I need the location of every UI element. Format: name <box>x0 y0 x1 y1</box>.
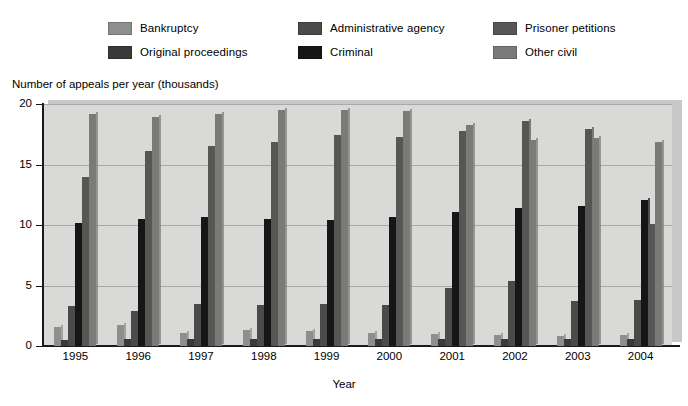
bar-1997-other-civil[interactable] <box>215 114 222 346</box>
bar-1998-other-civil[interactable] <box>278 110 285 346</box>
bar-2002-administrative-agency[interactable] <box>508 281 515 346</box>
bar-2002-criminal[interactable] <box>515 208 522 346</box>
bar-1997-bankruptcy[interactable] <box>180 333 187 346</box>
bar-1995-other-civil[interactable] <box>89 114 96 346</box>
bar-1998-prisoner-petitions[interactable] <box>271 142 278 346</box>
bar-1996-original-proceedings[interactable] <box>124 339 131 346</box>
bar-group-1998 <box>232 104 295 346</box>
bar-2003-criminal[interactable] <box>578 206 585 346</box>
bar-front-face <box>271 142 278 346</box>
bar-front-face <box>131 311 138 346</box>
bar-1995-bankruptcy[interactable] <box>54 327 61 346</box>
x-axis-label-1998: 1998 <box>232 350 295 362</box>
bar-1995-criminal[interactable] <box>75 223 82 346</box>
bar-front-face <box>327 220 334 346</box>
bar-2000-other-civil[interactable] <box>403 111 410 346</box>
bar-front-face <box>341 110 348 346</box>
bar-2002-other-civil[interactable] <box>529 140 536 346</box>
bar-2001-prisoner-petitions[interactable] <box>459 131 466 346</box>
bar-front-face <box>117 325 124 346</box>
bar-front-face <box>257 305 264 346</box>
bar-2000-original-proceedings[interactable] <box>375 339 382 346</box>
bar-front-face <box>578 206 585 346</box>
bar-1999-bankruptcy[interactable] <box>306 331 313 346</box>
bar-1996-administrative-agency[interactable] <box>131 311 138 346</box>
bar-2001-criminal[interactable] <box>452 212 459 346</box>
bar-2000-administrative-agency[interactable] <box>382 305 389 346</box>
bar-2000-prisoner-petitions[interactable] <box>396 137 403 346</box>
bar-1996-prisoner-petitions[interactable] <box>145 151 152 346</box>
bar-1996-other-civil[interactable] <box>152 117 159 346</box>
bar-1998-bankruptcy[interactable] <box>243 330 250 346</box>
bar-front-face <box>215 114 222 346</box>
bar-front-face <box>389 217 396 346</box>
bar-side-face <box>410 109 412 344</box>
bar-2004-other-civil[interactable] <box>655 142 662 346</box>
bar-1997-administrative-agency[interactable] <box>194 304 201 346</box>
bar-1999-original-proceedings[interactable] <box>313 339 320 346</box>
bar-2003-bankruptcy[interactable] <box>557 336 564 346</box>
y-tick-mark-10 <box>36 225 43 226</box>
legend-item-prisoner-petitions: Prisoner petitions <box>493 22 668 35</box>
bar-2002-bankruptcy[interactable] <box>494 335 501 346</box>
bar-2003-other-civil[interactable] <box>592 138 599 346</box>
bar-front-face <box>306 331 313 346</box>
bar-side-face <box>536 138 538 344</box>
bar-front-face <box>152 117 159 346</box>
bar-2001-administrative-agency[interactable] <box>445 288 452 346</box>
bar-front-face <box>201 217 208 346</box>
bar-1999-criminal[interactable] <box>327 220 334 346</box>
bar-front-face <box>620 335 627 346</box>
y-tick-mark-15 <box>36 165 43 166</box>
bar-2002-original-proceedings[interactable] <box>501 339 508 346</box>
bar-1997-prisoner-petitions[interactable] <box>208 146 215 346</box>
x-axis-label-2004: 2004 <box>609 350 672 362</box>
x-axis-label-2001: 2001 <box>421 350 484 362</box>
bar-2004-administrative-agency[interactable] <box>634 300 641 346</box>
bar-2001-other-civil[interactable] <box>466 125 473 346</box>
bar-front-face <box>431 334 438 346</box>
bar-1999-prisoner-petitions[interactable] <box>334 135 341 346</box>
bar-2004-bankruptcy[interactable] <box>620 335 627 346</box>
bar-side-face <box>473 123 475 344</box>
bar-2001-bankruptcy[interactable] <box>431 334 438 346</box>
bar-side-face <box>285 108 287 344</box>
bar-2000-criminal[interactable] <box>389 217 396 346</box>
bar-2004-original-proceedings[interactable] <box>627 339 634 346</box>
bar-2001-original-proceedings[interactable] <box>438 339 445 346</box>
bar-1999-administrative-agency[interactable] <box>320 304 327 346</box>
bar-front-face <box>438 339 445 346</box>
bar-1999-other-civil[interactable] <box>341 110 348 346</box>
bar-1995-administrative-agency[interactable] <box>68 306 75 346</box>
bar-side-face <box>222 112 224 344</box>
bar-front-face <box>145 151 152 346</box>
bar-1998-administrative-agency[interactable] <box>257 305 264 346</box>
bar-2004-prisoner-petitions[interactable] <box>648 224 655 346</box>
bar-1997-original-proceedings[interactable] <box>187 339 194 346</box>
bar-1998-original-proceedings[interactable] <box>250 339 257 346</box>
bar-1995-original-proceedings[interactable] <box>61 340 68 346</box>
bar-front-face <box>382 305 389 346</box>
bar-2000-bankruptcy[interactable] <box>368 333 375 346</box>
bar-front-face <box>396 137 403 346</box>
bar-front-face <box>466 125 473 346</box>
legend-swatch-other-civil <box>493 46 517 59</box>
bar-side-face <box>662 140 664 344</box>
x-axis-label-2002: 2002 <box>484 350 547 362</box>
bar-1997-criminal[interactable] <box>201 217 208 346</box>
bar-2003-administrative-agency[interactable] <box>571 301 578 346</box>
legend-item-criminal: Criminal <box>298 46 493 59</box>
legend-swatch-original-proceedings <box>108 46 132 59</box>
bar-2002-prisoner-petitions[interactable] <box>522 121 529 346</box>
legend-label-bankruptcy: Bankruptcy <box>140 22 199 35</box>
bar-2004-criminal[interactable] <box>641 200 648 346</box>
bar-2003-prisoner-petitions[interactable] <box>585 129 592 346</box>
bar-2003-original-proceedings[interactable] <box>564 339 571 346</box>
bar-front-face <box>585 129 592 346</box>
bar-1996-bankruptcy[interactable] <box>117 325 124 346</box>
bar-1996-criminal[interactable] <box>138 219 145 346</box>
bar-front-face <box>250 339 257 346</box>
bar-1998-criminal[interactable] <box>264 219 271 346</box>
bar-1995-prisoner-petitions[interactable] <box>82 177 89 346</box>
bar-front-face <box>459 131 466 346</box>
